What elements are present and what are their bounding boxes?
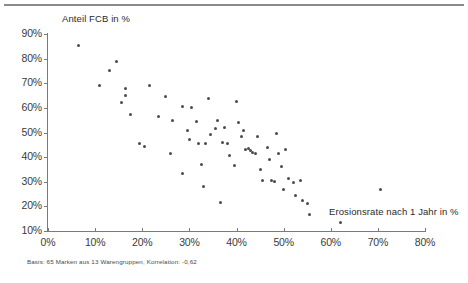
data-point [190, 106, 193, 109]
data-point [228, 154, 231, 157]
data-point [240, 135, 243, 138]
data-point [207, 97, 210, 100]
data-point [259, 168, 262, 171]
data-point [284, 148, 287, 151]
data-point [223, 126, 226, 129]
data-point [204, 142, 207, 145]
data-point [221, 141, 224, 144]
y-tick-label: 20% [0, 199, 42, 211]
data-point [233, 164, 236, 167]
x-tick-label: 30% [167, 236, 211, 248]
data-point [98, 84, 101, 87]
data-point [379, 188, 382, 191]
data-point [273, 180, 276, 183]
x-tick-label: 80% [403, 236, 447, 248]
x-tick-mark [425, 228, 426, 232]
data-point [138, 142, 141, 145]
data-point [108, 69, 111, 72]
data-point [277, 152, 280, 155]
data-point [266, 146, 269, 149]
data-point [157, 115, 160, 118]
data-point [294, 194, 297, 197]
data-point [237, 121, 240, 124]
data-point [256, 135, 259, 138]
data-point [171, 119, 174, 122]
chart-page: Anteil FCB in % Erosionsrate nach 1 Jahr… [0, 0, 468, 283]
x-tick-label: 50% [262, 236, 306, 248]
data-point [216, 119, 219, 122]
y-tick-label: 30% [0, 175, 42, 187]
y-tick-label: 50% [0, 126, 42, 138]
y-axis-title: Anteil FCB in % [62, 13, 130, 24]
data-point [282, 188, 285, 191]
data-point [209, 133, 212, 136]
y-tick-label: 60% [0, 101, 42, 113]
data-point [164, 95, 167, 98]
data-point [195, 120, 198, 123]
data-point [124, 87, 127, 90]
data-point [306, 202, 309, 205]
y-tick-label: 90% [0, 27, 42, 39]
plot-area [48, 34, 425, 231]
data-point [261, 179, 264, 182]
data-point [214, 127, 217, 130]
data-point [202, 185, 205, 188]
x-tick-label: 60% [309, 236, 353, 248]
data-point [181, 172, 184, 175]
x-tick-label: 40% [215, 236, 259, 248]
data-point [120, 101, 123, 104]
data-point [77, 44, 80, 47]
data-point [254, 152, 257, 155]
data-point [287, 177, 290, 180]
data-point [339, 221, 342, 224]
x-tick-label: 70% [356, 236, 400, 248]
data-point [148, 84, 151, 87]
data-point [308, 213, 311, 216]
data-point [124, 94, 127, 97]
data-point [186, 129, 189, 132]
x-tick-label: 0% [26, 236, 70, 248]
data-point [299, 179, 302, 182]
data-point [115, 60, 118, 63]
y-tick-label: 40% [0, 150, 42, 162]
scatter-chart: Anteil FCB in % Erosionsrate nach 1 Jahr… [0, 0, 468, 283]
data-point [268, 158, 271, 161]
data-point [275, 132, 278, 135]
data-point [301, 199, 304, 202]
data-point [129, 113, 132, 116]
data-point [219, 201, 222, 204]
data-point [181, 105, 184, 108]
x-tick-label: 10% [73, 236, 117, 248]
data-point [235, 100, 238, 103]
data-point [188, 138, 191, 141]
data-point [200, 163, 203, 166]
data-point [292, 181, 295, 184]
data-point [226, 142, 229, 145]
chart-footnote: Basis: 65 Marken aus 13 Warengruppen, Ko… [27, 258, 197, 265]
data-point [242, 129, 245, 132]
y-tick-label: 80% [0, 52, 42, 64]
data-point [143, 145, 146, 148]
data-point [197, 142, 200, 145]
y-tick-label: 70% [0, 76, 42, 88]
x-tick-label: 20% [120, 236, 164, 248]
data-point [169, 152, 172, 155]
y-tick-label: 10% [0, 224, 42, 236]
data-point [280, 165, 283, 168]
